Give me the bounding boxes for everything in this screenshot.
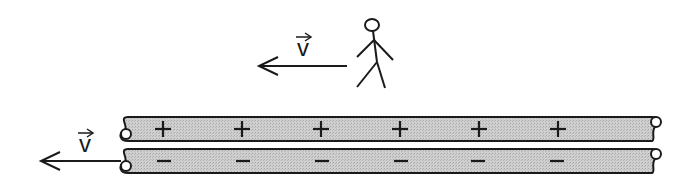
negative-charge-strip — [121, 149, 661, 173]
positive-charge-strip — [121, 117, 661, 141]
wire-v-text: v — [79, 130, 91, 157]
observer-v-text: v — [297, 34, 309, 61]
diagram-canvas: v — [0, 0, 696, 178]
observer-velocity-label: v — [296, 33, 311, 61]
wire-velocity-label: v — [78, 129, 93, 157]
walking-person-icon — [357, 19, 393, 88]
